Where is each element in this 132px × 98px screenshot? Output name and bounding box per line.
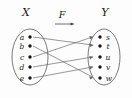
codomain-element-t: t [98,42,110,51]
domain-element-e-label: e [20,74,25,83]
domain-element-d: d [20,63,32,72]
codomain-dot-s [98,35,101,38]
mapping-arrow-e-v [33,66,94,78]
domain-dot-d [28,65,31,68]
domain-set-label: X [21,6,31,19]
mapping-arrow-a-t [33,37,94,47]
domain-element-d-label: d [20,63,25,72]
domain-element-e: e [20,74,32,83]
codomain-dot-u [98,55,101,58]
domain-dot-e [28,76,31,79]
codomain-element-s-label: s [106,33,110,42]
codomain-element-w: w [98,74,112,83]
codomain-element-u: u [98,53,110,62]
function-mapping-figure: X Y F [0,0,132,98]
domain-element-a-label: a [20,33,24,42]
function-direction-arrow-icon [55,22,74,25]
codomain-element-w-label: w [106,74,113,83]
codomain-element-s: s [98,33,110,42]
codomain-element-v: v [98,63,111,72]
domain-element-b: b [20,42,32,51]
codomain-dot-v [98,65,101,68]
domain-dot-c [28,55,31,58]
domain-dot-a [28,35,31,38]
codomain-dot-t [98,44,101,47]
domain-element-b-label: b [20,42,25,51]
domain-element-c-label: c [20,53,25,62]
domain-element-c: c [20,53,32,62]
domain-element-a: a [20,33,32,42]
codomain-element-t-label: t [106,42,110,51]
function-label: F [58,9,66,20]
codomain-dot-w [98,76,101,79]
domain-dot-b [28,44,31,47]
codomain-element-u-label: u [106,53,111,62]
mapping-arrow-c-s [33,36,94,57]
codomain-element-v-label: v [106,63,111,72]
mapping-arrow-b-w [33,46,94,80]
codomain-set-label: Y [101,6,110,19]
